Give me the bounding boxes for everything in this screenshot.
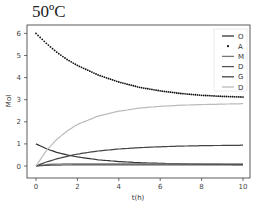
y-tick-label: 5 <box>17 52 21 60</box>
x-tick-label: 8 <box>199 183 203 191</box>
x-tick-label: 10 <box>239 183 248 191</box>
x-tick-label: 2 <box>75 183 79 191</box>
legend-label: A <box>238 43 243 51</box>
y-tick-label: 2 <box>17 118 21 126</box>
y-tick-label: 4 <box>17 74 22 82</box>
y-tick-label: 0 <box>17 163 21 171</box>
x-axis-ticks: 0246810 <box>34 178 248 191</box>
x-tick-label: 6 <box>158 183 163 191</box>
legend-label: G <box>238 73 243 81</box>
y-axis-ticks: 0123456 <box>17 30 27 171</box>
legend: OAMDGD <box>214 29 247 92</box>
x-tick-label: 4 <box>117 183 122 191</box>
legend-label: D <box>238 63 243 71</box>
legend-label: M <box>238 53 244 61</box>
series-o-0 <box>36 144 243 165</box>
legend-label: D <box>238 84 243 92</box>
x-tick-label: 0 <box>34 183 38 191</box>
series-a-1 <box>35 33 244 98</box>
x-axis-label: t(h) <box>132 194 145 202</box>
y-tick-label: 6 <box>17 30 22 38</box>
legend-marker <box>227 45 229 47</box>
legend-label: O <box>238 33 244 41</box>
y-tick-label: 1 <box>17 140 21 148</box>
plot-area <box>35 33 244 167</box>
line-chart: 0246810 0123456 t(h) Mol OAMDGD <box>0 0 262 205</box>
y-axis-label: Mol <box>5 95 13 107</box>
y-tick-label: 3 <box>17 96 21 104</box>
series-d-3 <box>36 165 243 166</box>
